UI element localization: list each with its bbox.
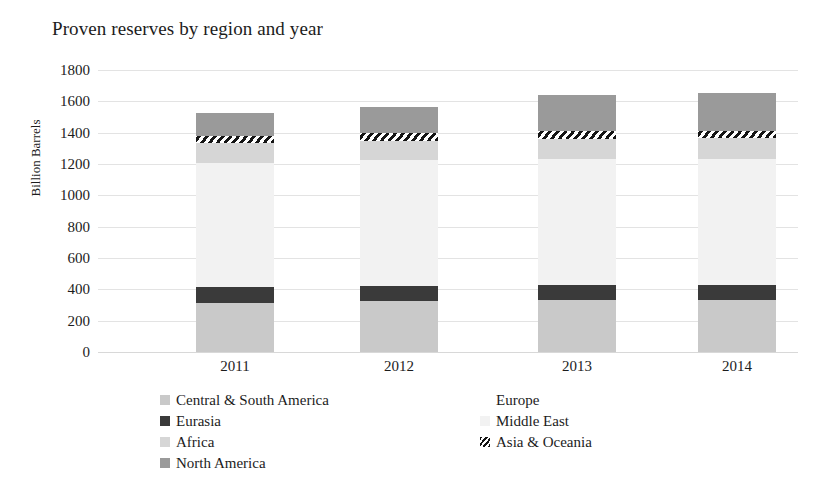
legend-item-label: Middle East (496, 412, 569, 430)
y-axis-tick-label: 400 (44, 281, 90, 298)
legend-item-label: Africa (176, 433, 214, 451)
legend-item[interactable]: Eurasia (160, 411, 460, 431)
y-axis-tick-label: 800 (44, 218, 90, 235)
bar-segment[interactable] (538, 131, 616, 139)
bar-segment[interactable] (698, 159, 776, 285)
stacked-bar[interactable] (698, 93, 776, 352)
legend-item[interactable]: Europe (480, 390, 760, 410)
legend-swatch-icon (480, 437, 490, 447)
y-axis-tick-label: 1000 (44, 187, 90, 204)
x-axis-tick-label: 2011 (175, 358, 295, 375)
legend-item[interactable]: Middle East (480, 411, 760, 431)
bar-segment[interactable] (196, 136, 274, 144)
stacked-bar[interactable] (196, 120, 274, 352)
bar-segment[interactable] (538, 95, 616, 132)
legend-item-label: Europe (496, 391, 539, 409)
legend-item-label: Asia & Oceania (496, 433, 592, 451)
gridline (98, 352, 798, 353)
bar-segment[interactable] (538, 285, 616, 301)
bar-segment[interactable] (538, 139, 616, 159)
bar-segment[interactable] (698, 285, 776, 301)
y-axis-tick-label: 1600 (44, 93, 90, 110)
legend-swatch-icon (160, 416, 170, 426)
legend-swatch-icon (160, 437, 170, 447)
bar-segment[interactable] (196, 113, 274, 135)
bar-segment[interactable] (538, 300, 616, 352)
legend-item-label: Central & South America (176, 391, 329, 409)
legend-item[interactable]: Africa (160, 432, 460, 452)
x-axis-tick-label: 2012 (339, 358, 459, 375)
bar-segment[interactable] (698, 93, 776, 131)
y-axis-tick-label: 200 (44, 312, 90, 329)
legend-item[interactable]: Central & South America (160, 390, 460, 410)
legend-column-right: EuropeMiddle EastAsia & Oceania (480, 390, 760, 453)
legend-item[interactable]: North America (160, 453, 460, 473)
legend-swatch-icon (480, 395, 490, 405)
bar-segment[interactable] (360, 141, 438, 161)
bar-segment[interactable] (196, 287, 274, 302)
chart-container: Proven reserves by region and year Billi… (0, 0, 839, 483)
legend-swatch-icon (160, 395, 170, 405)
bar-segment[interactable] (360, 301, 438, 352)
chart-title: Proven reserves by region and year (52, 18, 323, 40)
bar-segment[interactable] (698, 300, 776, 352)
legend-item-label: Eurasia (176, 412, 221, 430)
bar-group[interactable] (698, 93, 776, 352)
plot-area: 2011201220132014 (98, 70, 798, 352)
y-axis-tick-label: 600 (44, 250, 90, 267)
bar-segment[interactable] (196, 163, 274, 288)
bar-segment[interactable] (538, 159, 616, 285)
bar-segment[interactable] (360, 107, 438, 134)
bar-group[interactable] (360, 113, 438, 352)
bar-segment[interactable] (360, 160, 438, 285)
bar-segment[interactable] (360, 286, 438, 301)
bar-segment[interactable] (698, 131, 776, 139)
legend-swatch-icon (480, 416, 490, 426)
legend-item-label: North America (176, 454, 266, 472)
y-axis-tick-labels: 020040060080010001200140016001800 (40, 70, 90, 352)
legend-item[interactable]: Asia & Oceania (480, 432, 760, 452)
bar-segment[interactable] (698, 138, 776, 158)
gridline (98, 70, 798, 71)
y-axis-tick-label: 0 (44, 344, 90, 361)
y-axis-tick-label: 1400 (44, 124, 90, 141)
x-axis-tick-label: 2014 (677, 358, 797, 375)
bar-group[interactable] (196, 120, 274, 352)
legend-swatch-icon (160, 458, 170, 468)
stacked-bar[interactable] (360, 113, 438, 352)
y-axis-tick-label: 1200 (44, 156, 90, 173)
y-axis-tick-label: 1800 (44, 62, 90, 79)
gridline (98, 101, 798, 102)
bar-segment[interactable] (196, 143, 274, 162)
x-axis-tick-label: 2013 (517, 358, 637, 375)
stacked-bar[interactable] (538, 95, 616, 352)
chart-legend: Central & South AmericaEurasiaAfricaNort… (160, 390, 780, 476)
bar-segment[interactable] (360, 133, 438, 141)
bar-segment[interactable] (196, 303, 274, 353)
bar-group[interactable] (538, 95, 616, 352)
legend-column-left: Central & South AmericaEurasiaAfricaNort… (160, 390, 460, 474)
